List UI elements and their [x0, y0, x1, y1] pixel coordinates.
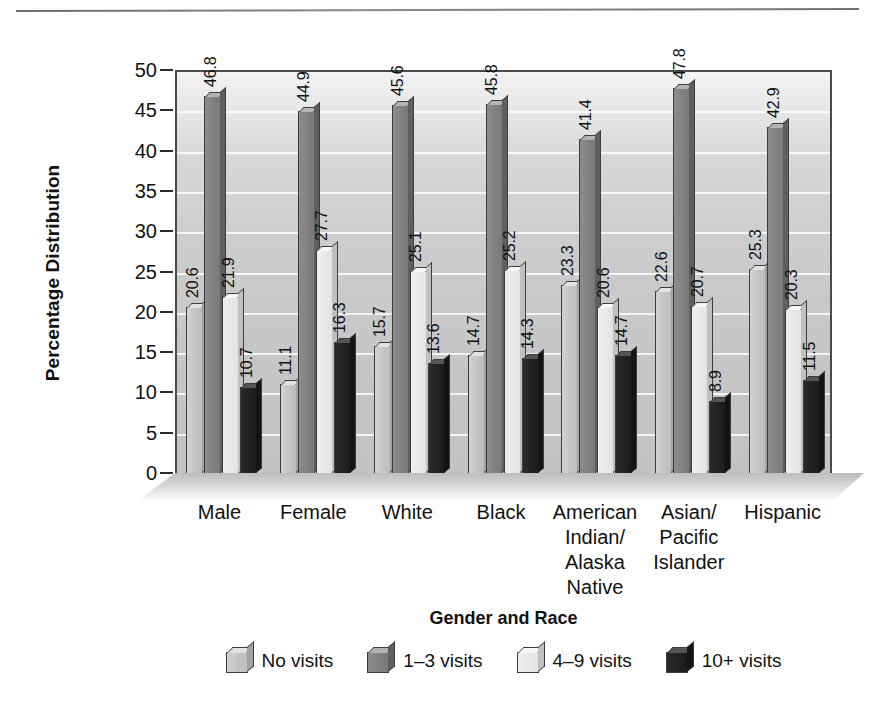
- bar-group: 23.341.420.614.7: [561, 72, 632, 473]
- bar-value-label: 44.9: [296, 72, 312, 102]
- y-axis-tick-label: 5: [87, 422, 157, 445]
- bar-value-label: 8.9: [708, 371, 724, 393]
- legend-swatch-side-face: [538, 641, 545, 672]
- bar-group: 14.745.825.214.3: [468, 72, 539, 473]
- legend-item: 4–9 visits: [517, 648, 632, 673]
- legend-label: No visits: [262, 650, 334, 672]
- plot-area: 20.646.821.910.711.144.927.716.315.745.6…: [175, 70, 832, 473]
- y-axis-tick-mark: [160, 230, 173, 232]
- bar: 25.3: [749, 269, 766, 473]
- bar-side-face: [631, 345, 637, 473]
- bar-group: 11.144.927.716.3: [280, 72, 351, 473]
- x-axis-tick-label: American Indian/ Alaska Native: [545, 500, 644, 600]
- bar: 45.6: [392, 105, 409, 473]
- legend-swatch-side-face: [687, 641, 694, 672]
- bar-value-label: 20.6: [185, 268, 201, 298]
- bar: 15.7: [374, 346, 391, 473]
- bar-value-label: 25.1: [408, 231, 424, 261]
- y-axis-tick-label: 0: [87, 462, 157, 485]
- x-axis-tick-labels: MaleFemaleWhiteBlackAmerican Indian/ Ala…: [175, 500, 832, 610]
- legend-label: 10+ visits: [702, 650, 782, 672]
- bar-value-label: 21.9: [221, 257, 237, 287]
- bar-value-label: 25.2: [502, 231, 518, 261]
- bar-side-face: [444, 354, 450, 473]
- y-axis-tick-label: 40: [87, 140, 157, 163]
- legend-label: 1–3 visits: [403, 650, 482, 672]
- y-axis-tick-mark: [160, 472, 173, 474]
- bar: 20.3: [785, 309, 802, 473]
- page-top-rule: [16, 8, 859, 12]
- y-axis-tick-mark: [160, 69, 173, 71]
- bar: 45.8: [486, 104, 503, 473]
- y-axis-tick-mark: [160, 109, 173, 111]
- bar: 14.7: [468, 355, 485, 473]
- y-axis-tick-mark: [160, 150, 173, 152]
- bar: 13.6: [428, 363, 445, 473]
- legend-item: No visits: [226, 648, 334, 673]
- bar-group: 15.745.625.113.6: [374, 72, 445, 473]
- bar: 41.4: [579, 139, 596, 473]
- bar: 47.8: [673, 88, 690, 473]
- bar-value-label: 25.3: [748, 230, 764, 260]
- y-axis-title: Percentage Distribution: [42, 108, 64, 438]
- bar-value-label: 27.7: [314, 210, 330, 240]
- y-axis-tick-mark: [160, 432, 173, 434]
- bar: 25.1: [410, 271, 427, 473]
- figure-container: Percentage Distribution 20.646.821.910.7…: [0, 0, 875, 709]
- x-axis-title: Gender and Race: [175, 608, 832, 629]
- bar: 10.7: [240, 387, 257, 473]
- legend-swatch: [367, 652, 389, 673]
- y-axis-tick-mark: [160, 351, 173, 353]
- legend-swatch: [226, 652, 248, 673]
- bar-value-label: 20.3: [784, 270, 800, 300]
- bar-group: 25.342.920.311.5: [749, 72, 820, 473]
- bar-value-label: 11.5: [802, 342, 818, 371]
- legend-swatch-side-face: [247, 641, 254, 672]
- bar-value-label: 42.9: [766, 88, 782, 118]
- y-axis-tick-mark: [160, 190, 173, 192]
- bar: 46.8: [204, 96, 221, 473]
- y-axis-tick-label: 35: [87, 180, 157, 203]
- bar: 14.7: [615, 355, 632, 473]
- bar: 20.6: [597, 307, 614, 473]
- y-axis-tick-label: 50: [87, 59, 157, 82]
- y-axis-tick-label: 10: [87, 381, 157, 404]
- legend-item: 10+ visits: [666, 648, 782, 673]
- bar: 44.9: [298, 111, 315, 473]
- bar-group: 22.647.820.78.9: [655, 72, 726, 473]
- y-axis-tick-label: 25: [87, 261, 157, 284]
- y-axis-tick-mark: [160, 311, 173, 313]
- bar: 16.3: [334, 342, 351, 473]
- bar-value-label: 22.6: [654, 252, 670, 282]
- chart-legend: No visits1–3 visits4–9 visits10+ visits: [175, 648, 832, 673]
- y-axis-tick-label: 15: [87, 341, 157, 364]
- legend-swatch-side-face: [388, 641, 395, 672]
- bar: 27.7: [316, 250, 333, 473]
- bar: 11.5: [803, 380, 820, 473]
- bar: 25.2: [504, 270, 521, 473]
- bar: 20.7: [691, 306, 708, 473]
- bar-side-face: [350, 333, 356, 473]
- y-axis-tick-mark: [160, 391, 173, 393]
- bar: 11.1: [280, 384, 297, 473]
- x-axis-tick-label: Black: [452, 500, 551, 525]
- chart-floor-3d: [140, 473, 864, 499]
- bar-side-face: [256, 378, 262, 473]
- bar-value-label: 16.3: [332, 302, 348, 332]
- x-axis-tick-label: Female: [264, 500, 363, 525]
- bar-value-label: 46.8: [203, 56, 219, 86]
- legend-label: 4–9 visits: [553, 650, 632, 672]
- y-axis-tick-label: 45: [87, 99, 157, 122]
- bar-value-label: 10.7: [239, 347, 255, 377]
- y-axis-tick-label: 20: [87, 301, 157, 324]
- bar-value-label: 11.1: [278, 345, 294, 374]
- x-axis-tick-label: Hispanic: [733, 500, 832, 525]
- bar-value-label: 20.6: [596, 268, 612, 298]
- bar-value-label: 45.6: [390, 66, 406, 96]
- bar-value-label: 14.3: [520, 318, 536, 348]
- y-axis-tick-mark: [160, 271, 173, 273]
- bar: 14.3: [522, 358, 539, 473]
- bar-side-face: [819, 371, 825, 473]
- x-axis-tick-label: White: [358, 500, 457, 525]
- legend-item: 1–3 visits: [367, 648, 482, 673]
